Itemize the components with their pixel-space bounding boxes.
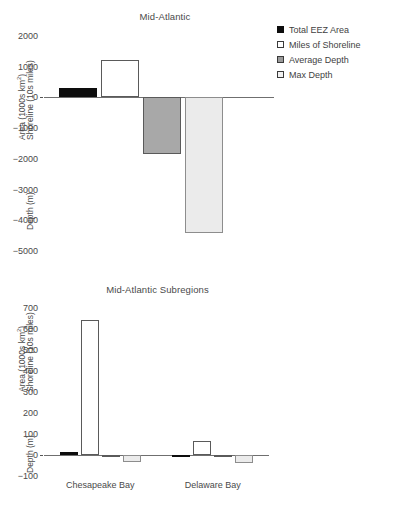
y-axis-tick-label: 100 [0, 429, 38, 439]
chart-panel-mid-atlantic: Mid-Atlantic Area (1000s km2) Shoreline … [0, 0, 398, 270]
y-axis-tick-label: 300 [0, 387, 38, 397]
legend-label: Max Depth [289, 70, 333, 80]
y-axis-tick-label: 0 [0, 92, 38, 102]
y-axis-tick-label: 600 [0, 324, 38, 334]
x-axis-category-labels: Chesapeake BayDelaware Bay [44, 478, 269, 496]
legend-item-top-3[interactable]: Max Depth [277, 67, 361, 82]
legend-item-top-1[interactable]: Miles of Shoreline [277, 37, 361, 52]
bar-miles-of-shoreline-delaware-bay [193, 441, 211, 455]
y-axis-tick-label: 0 [0, 450, 38, 460]
bar-total-eez-area-mid-atlantic [59, 88, 97, 97]
bar-miles-of-shoreline-mid-atlantic [101, 60, 139, 98]
y-axis-tick-label: −3000 [0, 185, 38, 195]
y-axis-tick-label: −4000 [0, 215, 38, 225]
plot-area-top: 200010000−1000−2000−3000−4000−5000 [44, 36, 274, 251]
y-axis-zero-tickmark [40, 97, 43, 98]
legend-item-top-0[interactable]: Total EEZ Area [277, 22, 361, 37]
plot-area-bottom: 7006005004003002001000−100 [44, 308, 269, 476]
gray-filled-square-icon [277, 56, 284, 63]
y-axis-tick-label: −2000 [0, 154, 38, 164]
y-axis-tick-label: 500 [0, 345, 38, 355]
y-axis-tick-label: −100 [0, 471, 38, 481]
chart-panel-mid-atlantic-subregions: Mid-Atlantic Subregions Area (1000s km2)… [0, 270, 398, 506]
bar-max-depth-chesapeake-bay [123, 455, 141, 462]
bar-max-depth-delaware-bay [235, 455, 253, 463]
y-axis-tick-label: 200 [0, 408, 38, 418]
legend-item-top-2[interactable]: Average Depth [277, 52, 361, 67]
black-filled-square-icon [277, 26, 284, 33]
y-axis-tick-label: −1000 [0, 123, 38, 133]
y-axis-tick-label: 2000 [0, 31, 38, 41]
y-axis-tick-label: 700 [0, 303, 38, 313]
legend-label: Average Depth [289, 55, 349, 65]
legend-label: Miles of Shoreline [289, 40, 361, 50]
legend-top: Total EEZ AreaMiles of ShorelineAverage … [277, 22, 361, 82]
bar-total-eez-area-delaware-bay [172, 455, 190, 457]
legend-label: Total EEZ Area [289, 25, 349, 35]
x-axis-category-label-delaware-bay: Delaware Bay [185, 480, 241, 490]
light-gray-outlined-square-icon [277, 71, 284, 78]
bar-average-depth-chesapeake-bay [102, 455, 120, 457]
figure-root: { "figure": { "background": "#ffffff", "… [0, 0, 398, 506]
chart-title-bottom: Mid-Atlantic Subregions [50, 284, 265, 295]
x-axis-category-label-chesapeake-bay: Chesapeake Bay [66, 480, 135, 490]
bar-miles-of-shoreline-chesapeake-bay [81, 320, 99, 455]
chart-title-top: Mid-Atlantic [60, 11, 270, 22]
y-axis-tick-label: −5000 [0, 246, 38, 256]
bar-max-depth-mid-atlantic [185, 97, 223, 232]
y-axis-tick-label: 400 [0, 366, 38, 376]
white-outlined-square-icon [277, 41, 284, 48]
bar-total-eez-area-chesapeake-bay [60, 452, 78, 455]
y-axis-tick-label: 1000 [0, 62, 38, 72]
y-axis-zero-tickmark [40, 455, 43, 456]
bar-average-depth-delaware-bay [214, 455, 232, 457]
bar-average-depth-mid-atlantic [143, 97, 181, 153]
